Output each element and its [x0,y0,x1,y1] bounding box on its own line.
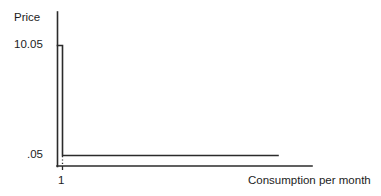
price-schedule-chart: Price 10.05 .05 1 Consumption per month [0,0,381,196]
y-tick-label-low: .05 [27,149,43,161]
price-schedule-step-line [58,46,279,156]
y-tick-label-high: 10.05 [14,39,43,51]
x-tick-label-1: 1 [58,175,64,187]
y-axis-title: Price [14,12,40,24]
chart-plot-area [0,0,381,196]
x-axis-title: Consumption per month [248,175,371,187]
